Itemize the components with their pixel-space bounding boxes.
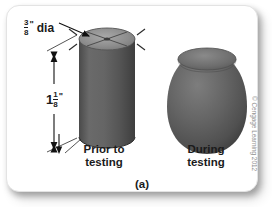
caption-during-line1: During xyxy=(173,143,239,156)
caption-during-line2: testing xyxy=(173,156,239,169)
diameter-inch-mark: " xyxy=(29,20,33,29)
length-whole: 1 xyxy=(46,93,53,106)
figure-sub-label: (a) xyxy=(102,178,182,191)
diameter-dimension-label: 3 8 " dia xyxy=(24,19,54,36)
length-dimension-label: 1 1 8 " xyxy=(46,91,63,108)
caption-prior-to-testing: Prior to testing xyxy=(69,143,139,169)
length-numerator: 1 xyxy=(53,91,57,99)
caption-prior-line1: Prior to xyxy=(69,143,139,156)
barrel-specimen xyxy=(167,48,247,154)
cylinder-specimen xyxy=(69,28,145,148)
figure-panel-inner: 3 8 " dia 1 1 8 " Prior to te xyxy=(7,6,257,191)
caption-during-testing: During testing xyxy=(173,143,239,169)
copyright-notice: © Cengage Learning 2012 xyxy=(251,96,258,171)
diameter-word: dia xyxy=(37,22,54,34)
diameter-numerator: 3 xyxy=(24,19,28,27)
diameter-leader xyxy=(59,23,89,36)
figure-root: 3 8 " dia 1 1 8 " Prior to te xyxy=(0,0,272,207)
figure-panel: 3 8 " dia 1 1 8 " Prior to te xyxy=(6,5,258,192)
length-fraction: 1 8 xyxy=(53,91,57,108)
diameter-denominator: 8 xyxy=(24,29,28,37)
caption-prior-line2: testing xyxy=(69,156,139,169)
length-inch-mark: " xyxy=(59,92,63,101)
length-denominator: 8 xyxy=(53,101,57,109)
diameter-fraction: 3 8 xyxy=(24,19,28,36)
